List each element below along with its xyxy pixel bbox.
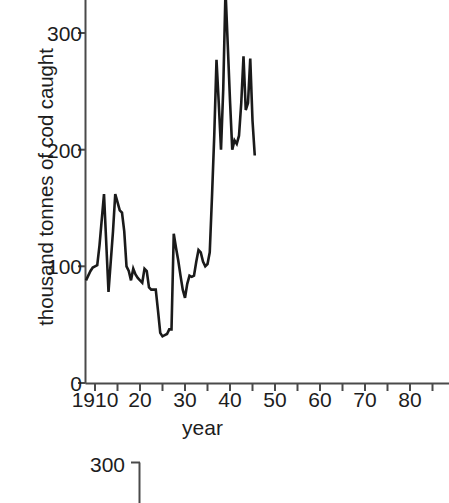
y-tick-300: 300 <box>47 22 82 46</box>
figure-stage: thousand tonnes of cod caught 300 200 10… <box>0 0 449 503</box>
x-tick-50: 50 <box>263 388 286 412</box>
x-tick-1910: 1910 <box>72 388 119 412</box>
x-tick-60: 60 <box>308 388 331 412</box>
second-chart-partial: 300 <box>0 449 449 503</box>
x-tick-80: 80 <box>398 388 421 412</box>
second-chart-y-tick-300: 300 <box>0 453 125 477</box>
cod-catch-line-chart: thousand tonnes of cod caught 300 200 10… <box>0 0 449 449</box>
cod-catch-series <box>86 0 255 336</box>
x-tick-30: 30 <box>173 388 196 412</box>
y-tick-200: 200 <box>47 139 82 163</box>
x-tick-40: 40 <box>218 388 241 412</box>
x-tick-20: 20 <box>128 388 151 412</box>
x-tick-70: 70 <box>353 388 376 412</box>
x-axis-title-wrap: year <box>0 416 449 440</box>
y-tick-100: 100 <box>47 255 82 279</box>
y-axis-tick-labels: 300 200 100 0 <box>0 0 82 449</box>
x-axis-title: year <box>182 416 223 439</box>
